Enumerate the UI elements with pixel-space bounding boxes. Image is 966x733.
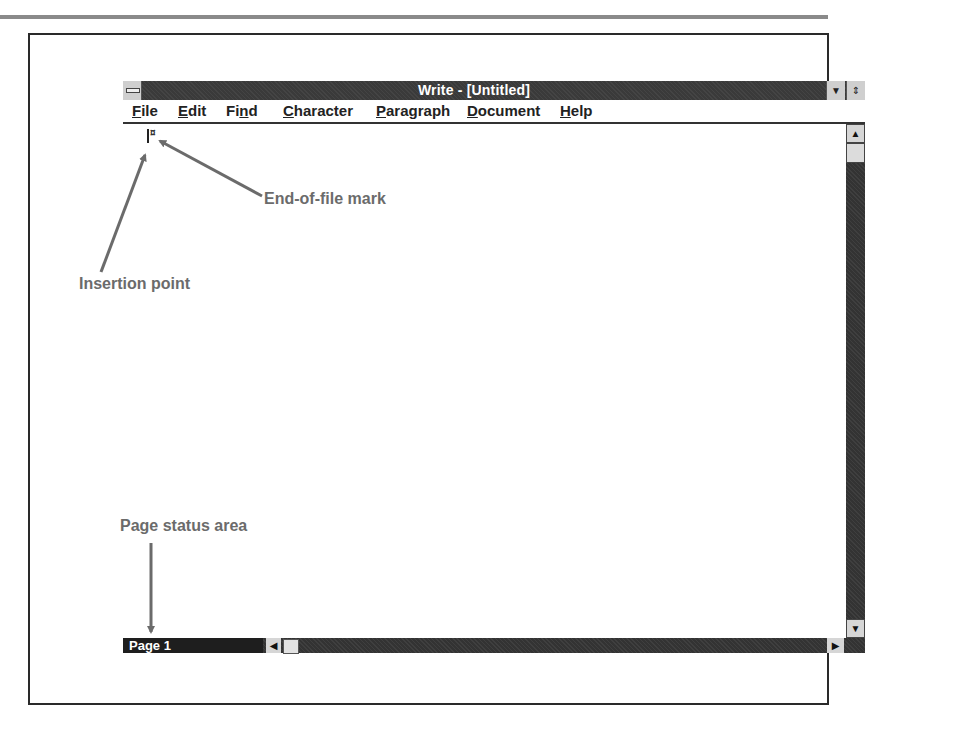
callout-insertion-point: Insertion point [79,275,190,293]
menu-document[interactable]: Document [467,102,540,119]
menu-paragraph[interactable]: Paragraph [376,102,450,119]
scroll-left-button[interactable]: ◀ [266,638,281,653]
horizontal-scroll-thumb[interactable] [283,639,299,654]
insertion-point [147,129,149,143]
maximize-button[interactable]: ⇕ [846,81,865,100]
bottom-bar: Page 1 ◀ ▶ [123,638,865,653]
scroll-right-button[interactable]: ▶ [827,638,844,653]
page-status-area: Page 1 [123,638,263,653]
maximize-icon: ⇕ [852,85,860,96]
arrow-up-icon: ▲ [851,128,861,139]
scroll-down-button[interactable]: ▼ [846,619,865,638]
menu-find[interactable]: Find [226,102,258,119]
menu-edit[interactable]: Edit [178,102,206,119]
menu-file[interactable]: File [132,102,158,119]
minimize-button[interactable]: ▼ [826,81,845,100]
vertical-scroll-thumb[interactable] [846,143,865,163]
end-of-file-mark: ¤ [150,127,156,138]
callout-page-status: Page status area [120,517,247,535]
minimize-icon: ▼ [831,85,841,96]
menu-bar: File Edit Find Character Paragraph Docum… [123,100,865,124]
menu-help[interactable]: Help [560,102,593,119]
window-title: Write - [Untitled] [123,82,825,98]
menu-character[interactable]: Character [283,102,353,119]
write-window: Write - [Untitled] ▼ ⇕ File Edit Find Ch… [123,81,865,653]
arrow-left-icon: ◀ [270,640,278,651]
top-rule [0,15,828,19]
scroll-up-button[interactable]: ▲ [846,124,865,143]
callout-end-of-file: End-of-file mark [264,190,386,208]
arrow-right-icon: ▶ [832,640,840,651]
document-area[interactable]: ¤ [123,124,846,638]
title-bar[interactable]: Write - [Untitled] ▼ ⇕ [123,81,865,100]
arrow-down-icon: ▼ [851,623,861,634]
vertical-scrollbar[interactable]: ▲ ▼ [846,124,865,638]
